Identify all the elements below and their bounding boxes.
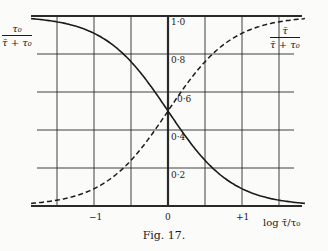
x-axis-title: log τ̄/τ₀: [263, 218, 300, 228]
y-tick-label-0-6: 0·6: [177, 95, 191, 104]
y-tick-label-0-8: 0·8: [171, 56, 185, 65]
y-tick-label-0-2: 0·2: [171, 171, 185, 180]
y-tick-label-0-4: 0·4: [171, 133, 185, 142]
x-tick-label-neg1: −1: [89, 213, 102, 222]
left-curve-label-denominator: τ̄ + τ₀: [2, 36, 32, 48]
grid-lines: [31, 16, 302, 206]
x-tick-label-pos1: +1: [236, 213, 249, 222]
figure-caption: Fig. 17.: [0, 229, 328, 242]
right-curve-label: τ̄ τ̄ + τ₀: [270, 25, 300, 50]
left-curve-label: τ₀ τ̄ + τ₀: [2, 23, 32, 48]
left-curve-label-numerator: τ₀: [2, 23, 32, 36]
right-curve-label-denominator: τ̄ + τ₀: [270, 38, 300, 50]
x-tick-label-0: 0: [165, 213, 171, 222]
right-curve-label-numerator: τ̄: [270, 25, 300, 38]
y-tick-label-1-0: 1·0: [171, 18, 185, 27]
